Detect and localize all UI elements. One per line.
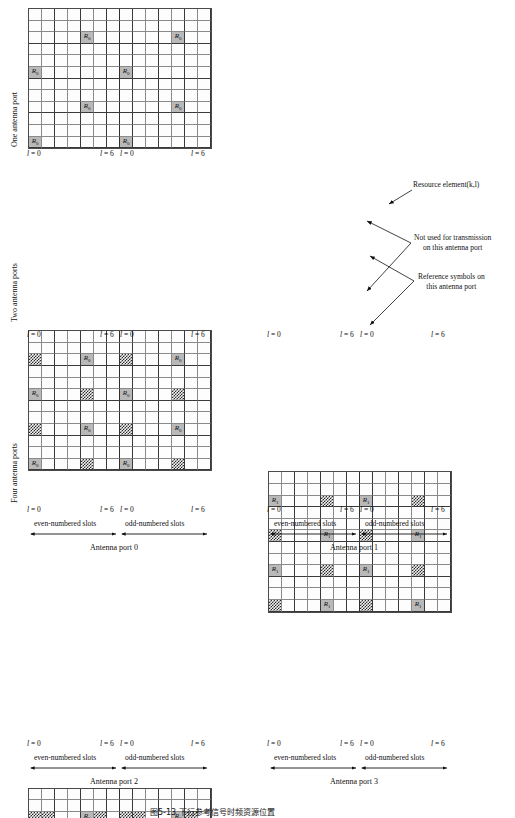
resource-element-cell <box>107 412 120 424</box>
resource-element-cell <box>185 412 198 424</box>
reference-symbol-label: R0 <box>123 138 129 146</box>
port-caption-2: Antenna port 2 <box>90 777 138 786</box>
resource-element-cell <box>29 401 42 413</box>
resource-element-cell <box>373 472 386 484</box>
resource-element-cell <box>146 9 159 21</box>
resource-element-cell <box>120 800 133 812</box>
resource-element-cell <box>425 542 438 554</box>
resource-element-cell <box>120 378 133 390</box>
resource-element-cell <box>146 354 159 366</box>
resource-element-cell <box>68 412 81 424</box>
callout-resource-element: Resource element(k,l) <box>413 180 479 190</box>
resource-element-cell <box>68 812 81 818</box>
resource-element-cell <box>360 554 373 566</box>
resource-element-cell <box>42 125 55 137</box>
port-caption-1: Antenna port 1 <box>330 543 378 552</box>
resource-element-cell <box>68 67 81 79</box>
resource-element-cell <box>360 484 373 496</box>
resource-element-cell <box>29 32 42 44</box>
resource-element-cell <box>159 366 172 378</box>
resource-element-cell <box>159 436 172 448</box>
resource-element-cell <box>360 588 373 600</box>
resource-element-cell <box>94 354 107 366</box>
resource-element-cell <box>185 137 198 149</box>
resource-element-cell <box>198 343 211 355</box>
axis-tick-four-antenna-ports-p1-1: l = 6 <box>340 505 354 514</box>
resource-element-cell <box>399 554 412 566</box>
resource-element-cell <box>386 588 399 600</box>
slot-label-odd: odd-numbered slots <box>365 753 424 762</box>
resource-element-cell <box>386 565 399 577</box>
resource-element-cell <box>172 9 185 21</box>
reference-symbol-cell: R1 <box>360 565 373 577</box>
axis-tick-four-antenna-ports-p0-2: l = 0 <box>120 505 134 514</box>
resource-element-cell <box>282 577 295 589</box>
axis-tick-two-antenna-ports-p1-1: l = 6 <box>340 330 354 339</box>
reference-symbol-cell: R0 <box>29 137 42 149</box>
resource-element-cell <box>146 137 159 149</box>
axis-tick-antenna-port-3-3: l = 6 <box>431 739 445 748</box>
resource-element-cell <box>42 343 55 355</box>
resource-element-cell <box>185 389 198 401</box>
resource-element-cell <box>198 32 211 44</box>
resource-element-cell <box>107 90 120 102</box>
resource-element-cell <box>68 125 81 137</box>
unused-cell <box>29 812 42 818</box>
resource-element-cell <box>42 412 55 424</box>
resource-element-cell <box>146 366 159 378</box>
resource-element-cell <box>133 447 146 459</box>
unused-cell <box>360 600 373 612</box>
resource-element-cell <box>438 519 451 531</box>
resource-element-cell <box>55 9 68 21</box>
resource-element-cell <box>159 459 172 471</box>
resource-element-cell <box>360 472 373 484</box>
resource-element-cell <box>438 472 451 484</box>
resource-element-cell <box>55 366 68 378</box>
resource-element-cell <box>29 800 42 812</box>
resource-element-cell <box>94 343 107 355</box>
resource-element-cell <box>269 542 282 554</box>
resource-element-cell <box>373 577 386 589</box>
resource-element-cell <box>42 459 55 471</box>
reference-symbol-cell: R0 <box>81 812 94 818</box>
resource-element-cell <box>198 436 211 448</box>
resource-element-cell <box>360 577 373 589</box>
resource-element-cell <box>386 542 399 554</box>
resource-element-cell <box>159 789 172 801</box>
resource-element-cell <box>198 113 211 125</box>
resource-element-cell <box>133 800 146 812</box>
resource-element-cell <box>347 472 360 484</box>
resource-element-cell <box>42 79 55 91</box>
reference-symbol-cell: R0 <box>29 389 42 401</box>
callout-reference-symbols-line1: Reference symbols on <box>418 272 485 282</box>
reference-symbol-label: R0 <box>84 33 90 41</box>
resource-element-cell <box>399 600 412 612</box>
resource-element-cell <box>172 401 185 413</box>
resource-element-cell <box>42 366 55 378</box>
resource-element-cell <box>68 32 81 44</box>
resource-element-cell <box>438 542 451 554</box>
resource-element-cell <box>295 565 308 577</box>
resource-element-cell <box>159 44 172 56</box>
resource-element-cell <box>185 113 198 125</box>
resource-element-cell <box>334 472 347 484</box>
resource-element-cell <box>172 21 185 33</box>
resource-element-cell <box>185 343 198 355</box>
unused-cell <box>81 389 94 401</box>
resource-grid-two-antenna-ports-p0: R0R0R0R0R0R0R0R0 <box>28 330 212 471</box>
resource-element-cell <box>42 800 55 812</box>
slot-label-even: even-numbered slots <box>274 519 336 528</box>
slot-label-odd: odd-numbered slots <box>125 519 184 528</box>
resource-element-cell <box>425 554 438 566</box>
resource-element-cell <box>29 44 42 56</box>
resource-element-cell <box>172 412 185 424</box>
resource-element-cell <box>185 67 198 79</box>
resource-element-cell <box>159 113 172 125</box>
resource-element-cell <box>146 79 159 91</box>
resource-element-cell <box>133 79 146 91</box>
resource-element-cell <box>159 447 172 459</box>
axis-tick-antenna-port-3-2: l = 0 <box>360 739 374 748</box>
resource-element-cell <box>198 789 211 801</box>
resource-element-cell <box>120 55 133 67</box>
resource-element-cell <box>94 366 107 378</box>
